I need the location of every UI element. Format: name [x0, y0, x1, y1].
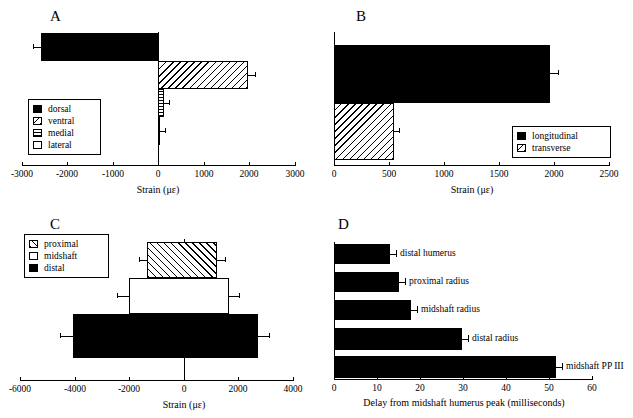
- panel-c-label: C: [50, 216, 60, 233]
- panel-b-axis-title: Strain (με): [422, 184, 522, 195]
- legend-label: longitudinal: [532, 130, 578, 142]
- bar-ventral: [158, 61, 248, 89]
- panel-a-tick: [249, 162, 250, 166]
- error-cap-medial: [169, 100, 170, 105]
- panel-d-axis-title: Delay from midshaft humerus peak (millis…: [336, 397, 592, 408]
- panel-b-tick-label: 2500: [587, 169, 631, 179]
- bar-label-midshaft-radius: midshaft radius: [421, 304, 480, 314]
- legend-label: transverse: [532, 142, 571, 154]
- panel-b-tick: [499, 162, 500, 166]
- legend-row: proximal: [29, 238, 103, 250]
- panel-d-tick-label: 0: [312, 383, 356, 393]
- legend-row: transverse: [517, 142, 605, 154]
- bar-proximal: [147, 242, 217, 278]
- panel-b-tick-label: 1000: [422, 169, 466, 179]
- panel-b-tick-label: 2000: [532, 169, 576, 179]
- error-cap-ventral: [255, 72, 256, 77]
- bar-midshaft: [129, 278, 229, 314]
- error-cap-proximal-radius: [405, 278, 406, 285]
- error-cap-dorsal: [33, 44, 34, 49]
- bar-midshaft-radius: [334, 300, 411, 320]
- bar-label-distal-radius: distal radius: [472, 333, 518, 343]
- panel-d-label: D: [338, 216, 349, 233]
- error-cap-longitudinal: [558, 70, 559, 75]
- legend-row: lateral: [33, 139, 95, 151]
- panel-c-legend: proximal midshaft distal: [24, 234, 109, 278]
- panel-c-tick-label: -6000: [0, 384, 42, 394]
- legend-row: longitudinal: [517, 130, 605, 142]
- legend-row: distal: [29, 262, 103, 274]
- legend-label: ventral: [48, 115, 74, 127]
- panel-a-axis-title: Strain (με): [108, 184, 208, 195]
- panel-c-tick-label: -4000: [53, 384, 97, 394]
- panel-b-tick: [389, 162, 390, 166]
- error-cap-distal-left: [60, 333, 61, 338]
- panel-b-tick: [444, 162, 445, 166]
- panel-a: A -3000 -2000 -1000 0 1000 2000 3000 Str…: [0, 0, 316, 209]
- bar-dorsal: [41, 33, 158, 61]
- panel-c: C -6000 -4000 -2000 0 2000 4000 Strain (…: [0, 209, 316, 418]
- panel-b-legend: longitudinal transverse: [512, 126, 611, 158]
- panel-d: D 0 10 20 30 40 50 60 Delay from midshaf…: [316, 209, 633, 418]
- panel-a-tick: [113, 162, 114, 166]
- panel-c-tick-label: 2000: [216, 384, 260, 394]
- panel-a-tick-label: -1000: [91, 169, 135, 179]
- panel-b: B 0 500 1000 1500 2000 2500 Strain (με) …: [316, 0, 633, 209]
- panel-d-tick: [592, 376, 593, 380]
- error-cap-distal-humerus: [396, 250, 397, 257]
- error-cap-transverse: [399, 128, 400, 133]
- legend-row: ventral: [33, 115, 95, 127]
- legend-label: distal: [44, 262, 65, 274]
- panel-c-tick-label: 4000: [271, 384, 315, 394]
- legend-label: proximal: [44, 238, 78, 250]
- bar-label-midshaft-pp-iii: midshaft PP III: [566, 361, 624, 371]
- legend-swatch-transverse-icon: [517, 144, 526, 152]
- panel-c-tick: [293, 377, 294, 381]
- panel-c-tick: [129, 377, 130, 381]
- error-cap-proximal-left: [139, 257, 140, 262]
- panel-a-tick-label: 3000: [273, 169, 317, 179]
- bar-distal-humerus: [334, 244, 390, 264]
- panel-d-tick-label: 40: [484, 383, 528, 393]
- panel-a-tick-label: -3000: [0, 169, 44, 179]
- legend-swatch-midshaft-icon: [29, 252, 38, 260]
- panel-c-tick-label: 0: [162, 384, 206, 394]
- panel-a-tick-label: 1000: [182, 169, 226, 179]
- panel-b-tick: [554, 162, 555, 166]
- error-bar-proximal-left: [139, 260, 148, 261]
- panel-c-axis-title: Strain (με): [134, 399, 234, 410]
- panel-b-tick-label: 500: [367, 169, 411, 179]
- error-bar-midshaft-left: [117, 296, 129, 297]
- bar-label-proximal-radius: proximal radius: [409, 276, 469, 286]
- panel-c-tick-label: -2000: [107, 384, 151, 394]
- legend-swatch-longitudinal-icon: [517, 132, 526, 140]
- panel-c-tick: [238, 377, 239, 381]
- error-cap-distal-right: [269, 333, 270, 338]
- panel-a-label: A: [50, 8, 61, 25]
- panel-d-tick-label: 30: [441, 383, 485, 393]
- panel-b-tick-label: 0: [312, 169, 356, 179]
- panel-c-tick: [184, 377, 185, 381]
- bar-midshaft-pp-iii: [334, 356, 556, 378]
- legend-swatch-lateral-icon: [33, 141, 42, 149]
- legend-label: lateral: [48, 139, 72, 151]
- panel-a-tick: [158, 162, 159, 166]
- panel-c-tick: [20, 377, 21, 381]
- panel-d-tick-label: 20: [398, 383, 442, 393]
- panel-b-tick-label: 1500: [477, 169, 521, 179]
- panel-d-tick-label: 60: [570, 383, 614, 393]
- panel-a-tick: [67, 162, 68, 166]
- panel-a-tick-label: -2000: [45, 169, 89, 179]
- legend-row: midshaft: [29, 250, 103, 262]
- bar-distal-radius: [334, 328, 462, 350]
- legend-swatch-medial-icon: [33, 129, 42, 137]
- legend-row: medial: [33, 127, 95, 139]
- error-cap-midshaft-left: [117, 293, 118, 298]
- error-cap-distal-radius: [468, 335, 469, 342]
- error-cap-midshaft-right: [239, 293, 240, 298]
- error-cap-lateral: [165, 128, 166, 133]
- panel-b-tick: [334, 162, 335, 166]
- panel-a-tick: [295, 162, 296, 166]
- legend-swatch-dorsal-icon: [33, 105, 42, 113]
- legend-label: midshaft: [44, 250, 77, 262]
